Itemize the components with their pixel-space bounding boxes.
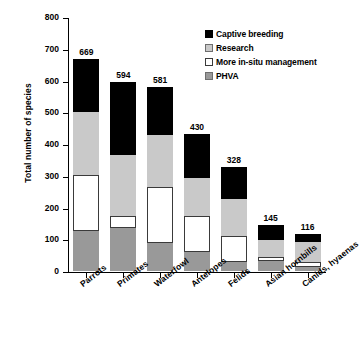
legend-swatch-icon bbox=[205, 30, 213, 38]
y-axis-tick: 500 bbox=[63, 113, 68, 114]
bar-segment-research bbox=[258, 240, 284, 257]
y-axis-tick-label: 500 bbox=[45, 107, 59, 117]
bar-felids[interactable] bbox=[221, 167, 247, 271]
y-axis-title: Total number of species bbox=[23, 33, 33, 233]
legend-item-captive-breeding: Captive breeding bbox=[205, 27, 337, 41]
y-axis-tick-label: 400 bbox=[45, 139, 59, 149]
y-axis-tick: 0 bbox=[63, 272, 68, 273]
y-axis-tick: 700 bbox=[63, 50, 68, 51]
bar-value-label: 594 bbox=[116, 70, 130, 80]
bar-segment-phva bbox=[110, 228, 136, 271]
bar-segment-captive-breeding bbox=[258, 225, 284, 240]
bar-value-label: 430 bbox=[190, 122, 204, 132]
legend-swatch-icon bbox=[205, 44, 213, 52]
bar-segment-captive-breeding bbox=[147, 87, 173, 136]
bar-segment-more-in-situ-management bbox=[73, 175, 99, 231]
bar-waterfowl[interactable] bbox=[147, 87, 173, 271]
bar-asian-hornbills[interactable] bbox=[258, 225, 284, 271]
bar-segment-more-in-situ-management bbox=[258, 257, 284, 261]
bar-segment-more-in-situ-management bbox=[110, 216, 136, 228]
y-axis-tick: 400 bbox=[63, 145, 68, 146]
bar-primates[interactable] bbox=[110, 82, 136, 271]
y-axis-tick-label: 100 bbox=[45, 234, 59, 244]
bar-antelopes[interactable] bbox=[184, 134, 210, 271]
y-axis-tick-label: 0 bbox=[54, 266, 59, 276]
y-axis-tick-label: 300 bbox=[45, 171, 59, 181]
bar-parrots[interactable] bbox=[73, 59, 99, 271]
legend-label: Research bbox=[216, 43, 253, 53]
bar-segment-captive-breeding bbox=[184, 134, 210, 178]
bar-segment-research bbox=[147, 135, 173, 187]
legend-label: Captive breeding bbox=[216, 29, 283, 39]
bar-segment-research bbox=[221, 199, 247, 236]
bar-segment-captive-breeding bbox=[110, 82, 136, 155]
bar-segment-research bbox=[110, 155, 136, 216]
y-axis-tick-label: 800 bbox=[45, 12, 59, 22]
legend-label: More in-situ management bbox=[216, 57, 317, 67]
bar-segment-captive-breeding bbox=[221, 167, 247, 199]
bar-value-label: 328 bbox=[227, 155, 241, 165]
bar-segment-phva bbox=[73, 231, 99, 271]
legend-item-phva: PHVA bbox=[205, 69, 337, 83]
legend-item-research: Research bbox=[205, 41, 337, 55]
y-axis-tick: 100 bbox=[63, 240, 68, 241]
y-axis-tick-label: 700 bbox=[45, 44, 59, 54]
bar-segment-research bbox=[73, 112, 99, 175]
bar-value-label: 669 bbox=[79, 47, 93, 57]
legend-swatch-icon bbox=[205, 58, 213, 66]
legend-label: PHVA bbox=[216, 71, 239, 81]
bar-value-label: 145 bbox=[264, 213, 278, 223]
y-axis-tick: 800 bbox=[63, 18, 68, 19]
bar-value-label: 581 bbox=[153, 75, 167, 85]
bar-segment-captive-breeding bbox=[73, 59, 99, 113]
y-axis-tick: 200 bbox=[63, 209, 68, 210]
bar-segment-more-in-situ-management bbox=[184, 216, 210, 251]
legend-item-more-in-situ-management: More in-situ management bbox=[205, 55, 337, 69]
bar-segment-more-in-situ-management bbox=[147, 187, 173, 243]
y-axis-tick-label: 200 bbox=[45, 203, 59, 213]
legend-swatch-icon bbox=[205, 72, 213, 80]
bar-segment-research bbox=[184, 178, 210, 216]
y-axis-tick: 600 bbox=[63, 82, 68, 83]
chart-legend: Captive breeding Research More in-situ m… bbox=[205, 27, 337, 83]
y-axis-tick-label: 600 bbox=[45, 76, 59, 86]
y-axis-tick: 300 bbox=[63, 177, 68, 178]
y-axis-line bbox=[68, 18, 69, 273]
bar-segment-captive-breeding bbox=[295, 234, 321, 242]
bar-value-label: 116 bbox=[301, 222, 315, 232]
